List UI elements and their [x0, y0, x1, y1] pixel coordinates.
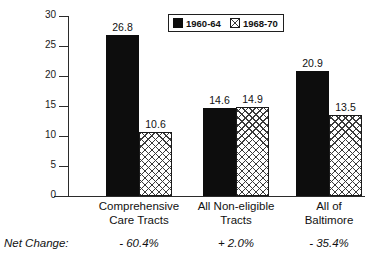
x-axis-category-labels: ComprehensiveCare TractsAll Non-eligible…: [68, 199, 365, 231]
y-axis-tick-mark: [59, 16, 68, 17]
bar-group: 14.614.9: [203, 16, 269, 196]
y-axis-tick-label: 15: [45, 99, 56, 111]
bar-value-label: 26.8: [112, 21, 132, 33]
y-axis-tick-mark: [59, 76, 68, 77]
category-label-line: All of: [269, 199, 375, 213]
y-axis-tick-mark: [59, 166, 68, 167]
y-axis-tick-label: 20: [45, 69, 56, 81]
plot-area: 051015202530 26.810.614.614.920.913.5: [68, 16, 365, 196]
y-axis-tick-label: 5: [50, 159, 56, 171]
category-label-line: Baltimore: [269, 213, 375, 227]
legend-swatch-hatch-icon: [230, 18, 240, 28]
legend-entry-1968-70: 1968-70: [230, 18, 278, 29]
y-axis-tick-label: 30: [45, 9, 56, 21]
y-axis-tick-mark: [59, 46, 68, 47]
bar: 10.6: [139, 132, 172, 196]
y-axis-tick-label: 10: [45, 129, 56, 141]
net-change-row: Net Change: - 60.4%+ 2.0%- 35.4%: [0, 236, 375, 254]
legend-swatch-solid-icon: [173, 18, 183, 28]
bar: 14.6: [203, 108, 236, 196]
net-change-caption: Net Change:: [4, 236, 69, 251]
y-axis-tick-mark: [59, 136, 68, 137]
y-axis-tick-label: 25: [45, 39, 56, 51]
bar-group: 20.913.5: [296, 16, 362, 196]
legend-entry-1960-64: 1960-64: [173, 18, 221, 29]
bar-value-label: 14.9: [242, 93, 262, 105]
x-axis-line: [54, 196, 365, 197]
y-axis-line: [68, 16, 69, 196]
bar-value-label: 14.6: [209, 94, 229, 106]
bar: 26.8: [106, 35, 139, 196]
bar-value-label: 10.6: [145, 118, 165, 130]
grouped-bar-chart: 051015202530 26.810.614.614.920.913.5 19…: [0, 0, 375, 260]
legend: 1960-64 1968-70: [168, 14, 284, 32]
y-axis-tick-label: 0: [50, 189, 56, 201]
x-axis-category-label: All ofBaltimore: [269, 199, 375, 227]
bar: 20.9: [296, 71, 329, 196]
legend-label: 1968-70: [243, 18, 278, 29]
y-axis-tick-mark: [59, 106, 68, 107]
bar: 14.9: [236, 107, 269, 196]
bar: 13.5: [329, 115, 362, 196]
bar-value-label: 13.5: [335, 101, 355, 113]
bar-value-label: 20.9: [302, 57, 322, 69]
net-change-value: - 35.4%: [269, 236, 375, 251]
legend-label: 1960-64: [186, 18, 221, 29]
bar-group: 26.810.6: [106, 16, 172, 196]
